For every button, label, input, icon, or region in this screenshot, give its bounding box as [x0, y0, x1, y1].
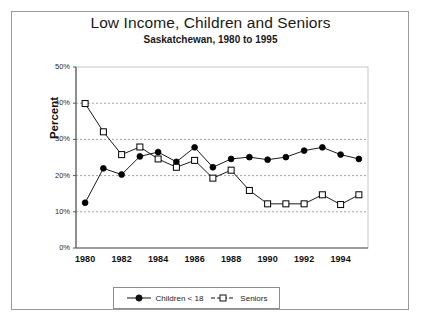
plot-frame: [73, 67, 368, 248]
x-tick-label: 1982: [102, 254, 142, 264]
chart-svg: [0, 0, 421, 332]
legend-label-seniors: Seniors: [240, 294, 267, 303]
legend-item-children[interactable]: Children < 18: [126, 293, 204, 303]
y-tick-label: 50%: [40, 62, 70, 71]
x-tick-label: 1994: [321, 254, 361, 264]
y-tick-label: 30%: [40, 134, 70, 143]
page-footer-ghost-text: [14, 322, 314, 332]
x-tick-label: 1980: [65, 254, 105, 264]
open-square-icon: [210, 293, 236, 303]
chart-legend: Children < 18 Seniors: [113, 287, 280, 309]
x-tick-label: 1990: [248, 254, 288, 264]
x-tick-label: 1988: [211, 254, 251, 264]
x-tick-label: 1986: [175, 254, 215, 264]
y-tick-label: 0%: [40, 243, 70, 252]
y-tick-label: 10%: [40, 207, 70, 216]
series-layer: [82, 101, 362, 208]
legend-label-children: Children < 18: [156, 294, 204, 303]
x-tick-label: 1984: [138, 254, 178, 264]
filled-circle-icon: [126, 293, 152, 303]
legend-item-seniors[interactable]: Seniors: [210, 293, 267, 303]
y-tick-label: 20%: [40, 171, 70, 180]
plot-area: [0, 0, 421, 332]
x-tick-label: 1992: [284, 254, 324, 264]
chart-page: Low Income, Children and Seniors Saskatc…: [0, 0, 421, 332]
y-tick-label: 40%: [40, 98, 70, 107]
